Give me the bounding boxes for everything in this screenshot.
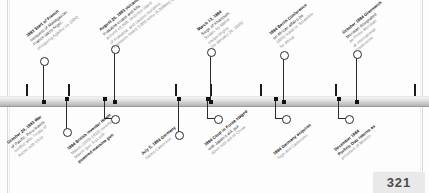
event-label-korea-coup: 1884 Coup in Korea staged with Japan's a… bbox=[203, 109, 256, 156]
event-label-krakatoa: August 26, 1883 Volcano Krakatoa erupts … bbox=[98, 0, 181, 50]
page-number: 321 bbox=[373, 171, 425, 193]
timeline-spine bbox=[0, 96, 429, 107]
timeline-tick bbox=[260, 84, 262, 96]
event-line: with Japan's aid, put bbox=[207, 113, 253, 151]
timeline-tick bbox=[26, 84, 28, 96]
timeline-tick bbox=[335, 84, 337, 96]
timeline-tick bbox=[68, 84, 70, 96]
event-label-madagascar-niger: 1883 Start of French conquest of Madagas… bbox=[25, 1, 80, 51]
page-number-text: 321 bbox=[387, 175, 412, 190]
timeline-page: 1883 Start of French conquest of Madagas… bbox=[0, 0, 429, 193]
event-label-germany-cameroon: July 5, 1884 Germany claims Cameroon bbox=[140, 125, 181, 161]
timeline-tick bbox=[210, 84, 212, 96]
event-label-greenwich-meridian: October 1884 Greenwich Meridian designat… bbox=[341, 0, 397, 53]
event-label-war-of-pacific: October 20, 1883 War of Pacific, Peru le… bbox=[6, 114, 53, 158]
event-label-togo-cameroon: 1884 Germany acquires Togo and Cameroon bbox=[272, 122, 316, 160]
event-label-porfirio-diaz: December 1884 Porfirio Diaz returns as p… bbox=[333, 119, 380, 161]
timeline-tick bbox=[414, 84, 416, 96]
event-label-siege-khartoum: March 13, 1884 Siege of Khartoum, Sudan,… bbox=[196, 3, 245, 50]
event-label-berlin-conference: 1884 Berlin Conference on African affair… bbox=[268, 2, 318, 49]
timeline-tick bbox=[175, 84, 177, 96]
event-date: 1884 Germany acquires bbox=[272, 122, 312, 156]
event-label-maxim-gun: 1884 British inventor Hiram Maxim (1840-… bbox=[66, 112, 123, 164]
